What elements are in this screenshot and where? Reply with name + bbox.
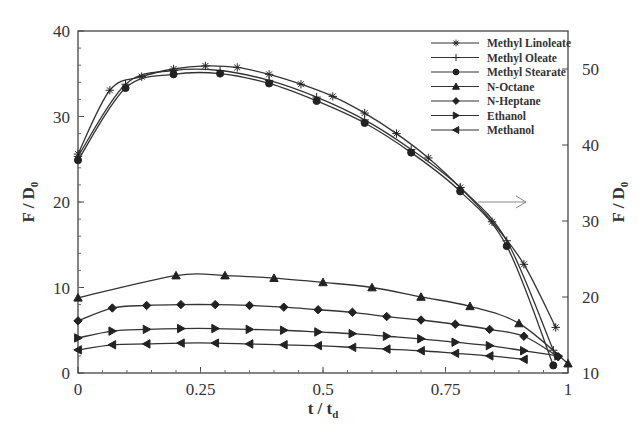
x-tick-label: 0.25 — [186, 380, 216, 399]
y-tick-label-left: 30 — [53, 108, 70, 127]
y-tick-label-right: 10 — [582, 364, 599, 383]
legend-item: Methyl Oleate — [431, 52, 557, 65]
x-tick-label: 0.75 — [431, 380, 461, 399]
plot-series — [74, 62, 572, 369]
y-tick-label-right: 40 — [582, 136, 599, 155]
legend-item: Methanol — [431, 124, 534, 136]
legend-label: N-Octane — [487, 81, 534, 93]
legend-item: Methyl Stearate — [431, 66, 566, 79]
y-tick-label-left: 20 — [53, 193, 70, 212]
legend-item: Methyl Linoleate — [431, 37, 571, 50]
y-tick-label-left: 40 — [53, 22, 70, 41]
x-tick-label: 0 — [74, 380, 83, 399]
legend-label: Methyl Oleate — [487, 52, 557, 65]
legend-item: N-Heptane — [431, 95, 541, 108]
series-methyl-stearate — [74, 70, 556, 369]
legend-label: Methyl Stearate — [487, 66, 566, 79]
y-axis-label-left: F / D0 — [19, 181, 40, 222]
legend-label: Methyl Linoleate — [487, 37, 571, 50]
y-tick-label-left: 10 — [53, 279, 70, 298]
legend-label: N-Heptane — [487, 95, 541, 108]
x-axis-label: t / td — [308, 399, 339, 420]
legend-label: Methanol — [487, 124, 534, 136]
legend: Methyl LinoleateMethyl OleateMethyl Stea… — [431, 37, 571, 136]
legend-label: Ethanol — [487, 110, 526, 122]
y-tick-label-left: 0 — [62, 364, 71, 383]
legend-item: N-Octane — [431, 81, 534, 93]
chart: 00.250.50.7510102030401020304050 Methyl … — [0, 0, 639, 441]
right-axis-arrow — [478, 196, 526, 208]
y-tick-label-right: 20 — [582, 288, 599, 307]
x-tick-label: 1 — [564, 380, 573, 399]
x-tick-label: 0.5 — [312, 380, 333, 399]
y-tick-label-right: 30 — [582, 212, 599, 231]
y-tick-label-right: 50 — [582, 60, 599, 79]
y-axis-label-right: F / D0 — [609, 181, 630, 222]
series-n-octane — [74, 271, 572, 367]
legend-item: Ethanol — [431, 110, 526, 122]
